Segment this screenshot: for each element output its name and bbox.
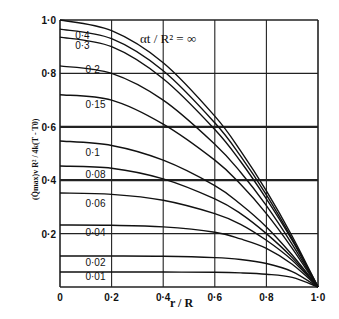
x-tick-label: 0·8 xyxy=(259,292,274,303)
y-tick-label: 0·8 xyxy=(42,68,57,79)
curve-label: 0·4 xyxy=(75,30,90,41)
y-tick-label: 1·0 xyxy=(42,15,57,26)
y-tick-label: 0·4 xyxy=(42,175,57,186)
curve-label: 0·08 xyxy=(85,169,105,180)
x-tick-label: 0·2 xyxy=(104,292,119,303)
curve-label: 0·3 xyxy=(75,40,90,51)
curve-label: 0·1 xyxy=(85,147,100,158)
curve-label: 0·02 xyxy=(85,257,105,268)
x-tick-label: 0 xyxy=(57,292,63,303)
chart: 0·40·30·20·150·10·080·060·040·020·01 00·… xyxy=(0,0,339,319)
curve-label: 0·15 xyxy=(85,99,105,110)
x-tick-label: 0·4 xyxy=(156,292,171,303)
curve-label: 0·01 xyxy=(85,271,105,282)
x-tick-label: 1·0 xyxy=(311,292,326,303)
curve-label: 0·2 xyxy=(85,64,100,75)
y-axis-label: (Q̇max)v R² / 4k(T - T0) xyxy=(30,118,40,200)
curve-label: 0·06 xyxy=(85,198,105,209)
curve-label: 0·04 xyxy=(85,227,105,238)
y-tick-label: 0·2 xyxy=(42,229,57,240)
x-tick-label: 0·6 xyxy=(208,292,223,303)
infinity-annotation: αt / R² = ∞ xyxy=(140,31,196,46)
x-axis-label: r / R xyxy=(170,296,193,310)
y-axis-ticks: 0·20·40·60·81·0 xyxy=(42,15,57,240)
y-tick-label: 0·6 xyxy=(42,122,57,133)
